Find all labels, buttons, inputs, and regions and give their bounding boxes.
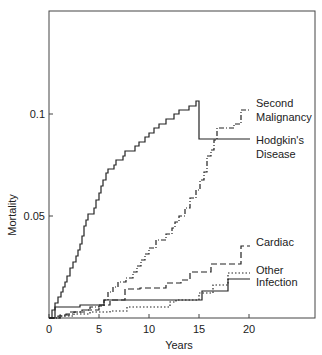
mortality-chart: 0.05 0.1 0 5 10 15 20 Years Mortality Se… bbox=[0, 0, 322, 355]
label-infection: Infection bbox=[256, 276, 298, 288]
x-tick-label-10: 10 bbox=[143, 323, 155, 335]
x-tick-label-20: 20 bbox=[243, 323, 255, 335]
series-other bbox=[49, 273, 250, 318]
y-tick-label-005: 0.05 bbox=[24, 210, 45, 222]
label-cardiac: Cardiac bbox=[256, 236, 294, 248]
x-tick-label-0: 0 bbox=[46, 323, 52, 335]
series-second-malignancy bbox=[49, 110, 250, 318]
x-ticks bbox=[49, 314, 249, 318]
label-other: Other bbox=[256, 264, 284, 276]
y-tick-label-01: 0.1 bbox=[30, 108, 45, 120]
label-hodgkins-2: Disease bbox=[256, 148, 296, 160]
x-tick-label-5: 5 bbox=[96, 323, 102, 335]
y-axis-label: Mortality bbox=[6, 194, 18, 236]
x-axis-label: Years bbox=[165, 339, 193, 351]
label-second-malignancy-2: Malignancy bbox=[256, 111, 312, 123]
label-second-malignancy-1: Second bbox=[256, 97, 293, 109]
x-tick-label-15: 15 bbox=[193, 323, 205, 335]
label-hodgkins-1: Hodgkin's bbox=[256, 134, 304, 146]
